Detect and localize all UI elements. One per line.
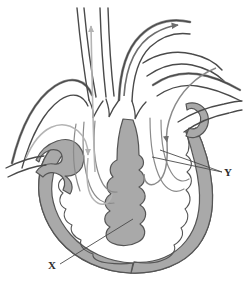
aorta-inner-edge	[132, 34, 190, 101]
pulmonary-trunk-left-edge	[77, 8, 89, 100]
aortic-branch-upper-edge	[143, 52, 222, 70]
heart-diagram-canvas: X Y	[0, 0, 243, 283]
label-x: X	[48, 259, 56, 271]
arrow-left-ventricle-loop	[144, 142, 167, 185]
label-y: Y	[224, 166, 232, 178]
pulmonary-trunk-right-inner	[108, 8, 114, 96]
arrow-up-pulmonary	[91, 26, 95, 172]
pulmonary-vein-superior-upper-edge	[153, 73, 240, 90]
pulmonary-vein-superior-upper	[153, 73, 240, 90]
semilunar-valve-cusp-mid	[106, 99, 119, 117]
pulmonary-trunk-right-edge	[100, 8, 106, 97]
heart-muscle-mass	[36, 103, 213, 273]
semilunar-valve-cusp-left	[89, 100, 103, 118]
interventricular-septum	[105, 119, 146, 246]
semilunar-valve-cusp-right	[132, 101, 146, 119]
pulmonary-vein-superior-lower-edge	[157, 85, 241, 101]
heart-diagram-figure: X Y	[0, 0, 243, 283]
